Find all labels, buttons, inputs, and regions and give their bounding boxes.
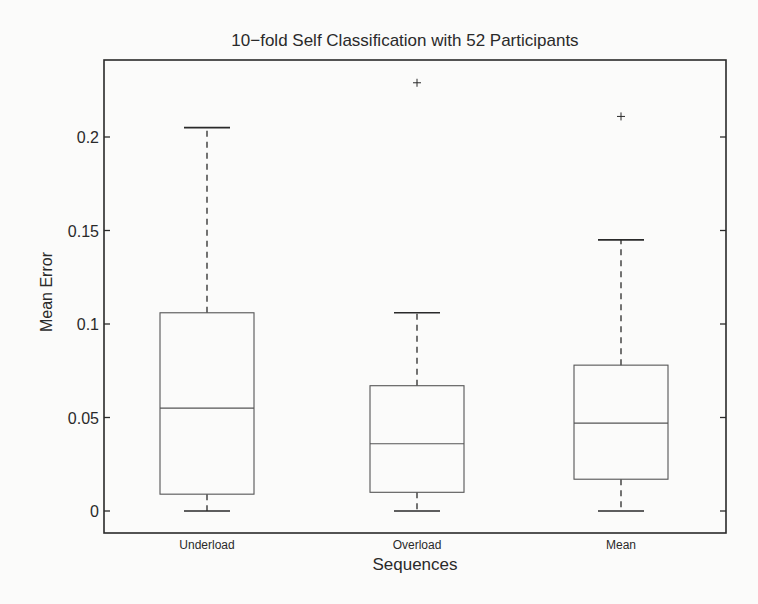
x-category-label: Overload [393,538,442,552]
y-tick-label: 0.2 [77,129,99,146]
x-axis-label: Sequences [372,555,457,574]
chart-title: 10−fold Self Classification with 52 Part… [231,31,578,50]
box-iqr [370,386,464,493]
box-iqr [160,313,254,494]
y-tick-label: 0 [90,503,99,520]
plot-area: 00.050.10.150.2UnderloadOverloadMean [68,60,726,552]
axes-frame [104,60,726,533]
y-tick-label: 0.15 [68,223,99,240]
y-tick-label: 0.1 [77,316,99,333]
x-category-label: Underload [179,538,234,552]
x-category-label: Mean [606,538,636,552]
y-axis-label: Mean Error [38,251,55,332]
boxplot-chart: 10−fold Self Classification with 52 Part… [0,0,758,604]
y-tick-label: 0.05 [68,410,99,427]
box-iqr [574,365,668,479]
